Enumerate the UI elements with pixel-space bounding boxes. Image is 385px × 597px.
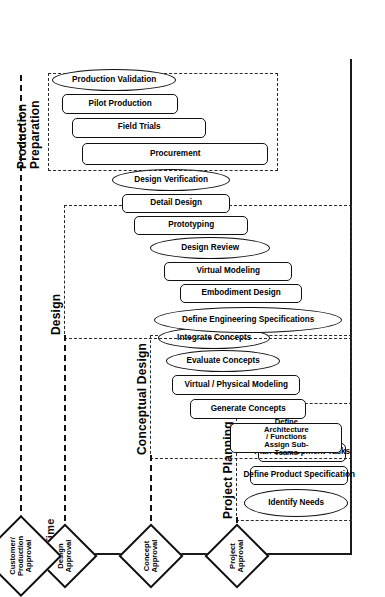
- task-label: Evaluate Concepts: [186, 357, 259, 365]
- task-label: Detail Design: [150, 199, 202, 207]
- phase-title-design: Design: [50, 294, 63, 335]
- milestone-concept-approval[interactable]: Concept Approval: [128, 533, 174, 579]
- task-label: Design Review: [181, 244, 239, 252]
- task-prototyping[interactable]: Prototyping: [134, 216, 248, 235]
- task-label: Define Architecture / Functions Assign S…: [264, 419, 309, 458]
- task-label: Define Engineering Specifications: [182, 316, 314, 324]
- task-label: Virtual Modeling: [196, 267, 260, 275]
- task-label: Procurement: [150, 150, 201, 158]
- milestone-lead-design-approval: [64, 335, 66, 551]
- task-field-trials[interactable]: Field Trials: [72, 118, 206, 138]
- task-identify-needs[interactable]: Identify Needs: [244, 489, 348, 517]
- diamond-shape: [204, 523, 269, 588]
- task-label: Embodiment Design: [201, 289, 280, 297]
- task-label: Field Trials: [118, 124, 161, 132]
- task-detail-design[interactable]: Detail Design: [122, 194, 230, 213]
- task-virtual-physical-modeling[interactable]: Virtual / Physical Modeling: [172, 375, 300, 395]
- task-evaluate-concepts[interactable]: Evaluate Concepts: [166, 350, 280, 372]
- task-label: Prototyping: [168, 221, 214, 229]
- diamond-shape: [118, 523, 183, 588]
- task-label: Define Product Specification: [243, 471, 354, 479]
- task-label: Design Verification: [134, 176, 208, 184]
- task-label: Identify Needs: [268, 499, 324, 507]
- task-label: Virtual / Physical Modeling: [184, 381, 288, 389]
- task-production-validation[interactable]: Production Validation: [52, 69, 176, 91]
- task-virtual-modeling[interactable]: Virtual Modeling: [164, 262, 292, 281]
- phase-title-conceptual-design: Conceptual Design: [136, 343, 149, 455]
- milestone-lead-customer-production-approval: [20, 75, 22, 551]
- task-define-engineering-specifications[interactable]: Define Engineering Specifications: [154, 307, 342, 333]
- task-generate-concepts[interactable]: Generate Concepts: [190, 399, 306, 419]
- task-design-verification[interactable]: Design Verification: [112, 169, 230, 191]
- task-define-product-specification[interactable]: Define Product Specification: [250, 466, 348, 485]
- task-label: Generate Concepts: [210, 405, 285, 413]
- task-pilot-production[interactable]: Pilot Production: [62, 94, 178, 114]
- milestone-customer-production-approval[interactable]: Customer/ Production Approval: [0, 527, 50, 585]
- task-procurement[interactable]: Procurement: [82, 143, 268, 165]
- task-label: Pilot Production: [88, 100, 151, 108]
- task-design-review[interactable]: Design Review: [150, 237, 270, 259]
- milestone-project-approval[interactable]: Project Approval: [214, 533, 260, 579]
- task-define-architecture-functions[interactable]: Define Architecture / Functions Assign S…: [230, 423, 342, 453]
- task-label: Production Validation: [72, 76, 156, 84]
- task-embodiment-design[interactable]: Embodiment Design: [180, 284, 302, 303]
